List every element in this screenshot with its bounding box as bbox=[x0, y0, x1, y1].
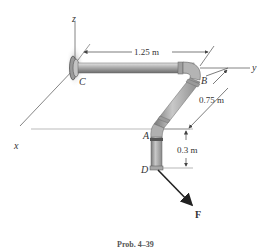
axis-label-x: x bbox=[13, 140, 19, 151]
axis-label-z: z bbox=[71, 13, 76, 24]
pipe-assembly-diagram: z y x C B A D 1.25 m 0.75 m 0.3 m F Prob… bbox=[0, 0, 267, 252]
force-label: F bbox=[195, 209, 201, 220]
pipe-ad bbox=[150, 137, 163, 170]
dimension-label-ba: 0.75 m bbox=[199, 95, 224, 105]
b-extension bbox=[200, 46, 214, 66]
force-arrow bbox=[158, 170, 192, 205]
point-label-b: B bbox=[201, 75, 207, 86]
point-label-d: D bbox=[140, 164, 149, 175]
wall-flange bbox=[70, 56, 80, 80]
axes bbox=[20, 22, 250, 129]
x-axis bbox=[20, 68, 75, 126]
point-label-a: A bbox=[142, 130, 150, 141]
pipe-cb bbox=[78, 62, 194, 74]
figure-caption: Prob. 4–39 bbox=[117, 240, 154, 249]
dimension-label-ad: 0.3 m bbox=[177, 145, 198, 155]
dimension-label-cb: 1.25 m bbox=[134, 47, 159, 57]
point-label-c: C bbox=[79, 76, 86, 87]
elbow-b bbox=[183, 62, 200, 80]
pipe-ba bbox=[154, 78, 200, 128]
axis-label-y: y bbox=[251, 62, 257, 73]
